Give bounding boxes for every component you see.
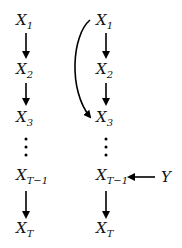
right-node-x3: X3 [95, 108, 113, 128]
ellipsis-dot [25, 138, 28, 141]
ellipsis-dot [105, 154, 108, 157]
left-node-x3: X3 [15, 108, 33, 128]
node-y: Y [161, 168, 173, 186]
ellipsis-dot [25, 154, 28, 157]
left-node-x2: X2 [15, 60, 33, 80]
ellipsis-dot [25, 146, 28, 149]
causal-diagram: X1 X2 X3 XT−1 XT X1 X2 X3 XT−1 XT [0, 0, 182, 248]
right-edge-x1-x3-curved [75, 20, 90, 117]
right-node-x1: X1 [95, 11, 113, 31]
right-ellipsis [105, 138, 108, 157]
left-node-xt: XT [15, 219, 35, 239]
left-chain: X1 X2 X3 XT−1 XT [15, 11, 48, 239]
right-node-x2: X2 [95, 60, 113, 80]
right-node-xt-minus-1: XT−1 [95, 166, 128, 186]
left-ellipsis [25, 138, 28, 157]
left-node-xt-minus-1: XT−1 [15, 166, 48, 186]
right-node-xt: XT [95, 219, 115, 239]
left-node-x1: X1 [15, 11, 33, 31]
ellipsis-dot [105, 138, 108, 141]
right-chain: X1 X2 X3 XT−1 XT Y [75, 11, 173, 239]
ellipsis-dot [105, 146, 108, 149]
